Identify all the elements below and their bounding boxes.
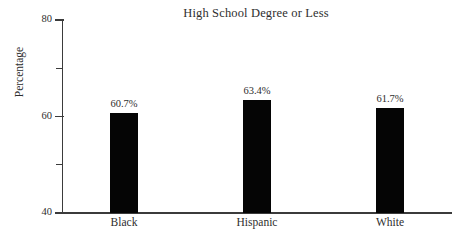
x-tick-label-white: White <box>345 216 435 228</box>
bar-chart-figure: High School Degree or Less Percentage 80… <box>0 0 471 241</box>
y-tick-label-40: 40 <box>5 206 52 217</box>
y-tick-label-60: 60 <box>5 110 52 121</box>
bar-hispanic[interactable] <box>243 100 271 213</box>
bar-white[interactable] <box>376 108 404 213</box>
bar-value-label-black: 60.7% <box>94 98 154 109</box>
y-tick-label-80: 80 <box>5 13 52 24</box>
bar-value-label-hispanic: 63.4% <box>227 85 287 96</box>
x-tick-label-black: Black <box>79 216 169 228</box>
plot-area <box>62 20 452 213</box>
bar-value-label-white: 61.7% <box>360 93 420 104</box>
x-tick-label-hispanic: Hispanic <box>212 216 302 228</box>
bar-black[interactable] <box>110 113 138 213</box>
